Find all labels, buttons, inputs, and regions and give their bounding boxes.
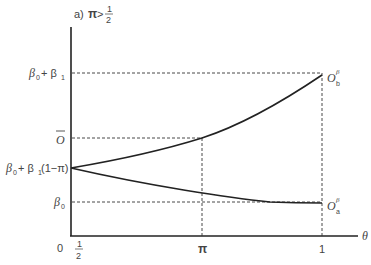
x-label-pi: π xyxy=(198,242,207,256)
curve-o-a xyxy=(71,168,322,203)
y-label-b0: β 0 xyxy=(53,195,65,210)
svg-text:0: 0 xyxy=(13,169,17,176)
svg-text:1: 1 xyxy=(61,74,65,81)
svg-text:+ β: + β xyxy=(18,162,34,174)
y-label-o-bar: O xyxy=(56,131,65,147)
title-frac-num: 1 xyxy=(107,4,112,14)
svg-text:O: O xyxy=(56,133,65,147)
svg-text:1: 1 xyxy=(77,239,82,249)
diagram-canvas: a) π > 1 2 β 0 + β 1 O β 0 + β 1 (1−π) β xyxy=(0,0,371,265)
svg-text:a: a xyxy=(336,208,340,215)
dashed-guides xyxy=(72,73,322,236)
y-label-b0-plus-b1-1-minus-pi: β 0 + β 1 (1−π) xyxy=(5,161,68,176)
title-pi: π xyxy=(88,7,97,21)
svg-text:β: β xyxy=(53,195,60,209)
svg-text:β: β xyxy=(335,196,340,204)
svg-text:β: β xyxy=(28,66,35,80)
y-label-b0-plus-b1: β 0 + β 1 xyxy=(28,66,65,81)
svg-text:O: O xyxy=(327,199,336,213)
svg-text:(1−π): (1−π) xyxy=(41,162,68,174)
x-label-half: 1 2 xyxy=(75,239,83,261)
svg-text:β: β xyxy=(5,161,12,175)
svg-text:O: O xyxy=(327,71,336,85)
curve-label-o-b: O b β xyxy=(327,68,340,87)
diagram-title: a) π > 1 2 xyxy=(74,4,113,25)
curve-label-o-a: O a β xyxy=(327,196,340,215)
svg-text:β: β xyxy=(335,68,340,76)
svg-text:2: 2 xyxy=(76,251,81,261)
origin-label: 0 xyxy=(57,242,63,254)
title-prefix: a) xyxy=(74,8,84,20)
title-operator: > xyxy=(97,8,103,20)
x-axis-label-theta: θ xyxy=(362,229,368,243)
svg-text:0: 0 xyxy=(61,203,65,210)
x-label-one: 1 xyxy=(319,243,325,255)
curve-o-b xyxy=(71,75,322,168)
svg-text:+ β: + β xyxy=(41,67,57,79)
svg-text:0: 0 xyxy=(36,74,40,81)
svg-text:b: b xyxy=(336,80,340,87)
title-frac-den: 2 xyxy=(106,15,111,25)
